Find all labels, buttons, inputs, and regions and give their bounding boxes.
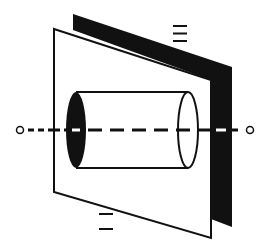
diagram-canvas — [0, 0, 266, 251]
back-plate-symbol — [173, 26, 187, 41]
axis-right-endpoint — [247, 127, 254, 134]
axis-line — [17, 127, 55, 134]
front-plate-symbol — [99, 214, 113, 229]
plates-cylinder-diagram — [0, 0, 266, 251]
axis-left-endpoint — [17, 127, 24, 134]
